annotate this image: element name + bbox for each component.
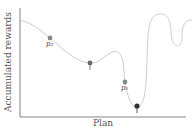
y-axis-label: Accumulated rewards: [3, 12, 13, 112]
x-axis-label: Plan: [93, 118, 113, 128]
diagram-canvas: [0, 0, 196, 133]
reward-curve: [20, 14, 192, 107]
point-p2-label: p₂: [46, 40, 53, 48]
point-p1-label: p₁: [121, 84, 128, 92]
